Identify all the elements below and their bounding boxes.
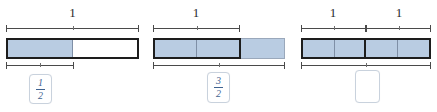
brace-cap-right xyxy=(239,25,240,32)
answer-box-three-halves[interactable]: 3 2 xyxy=(207,72,230,103)
bar-cell-shaded[interactable] xyxy=(366,40,398,57)
fraction-value: 1 2 xyxy=(36,78,45,101)
answer-box-empty[interactable] xyxy=(355,70,380,103)
fraction-model-three-halves: 1 3 2 xyxy=(148,0,293,112)
bar-cell-shaded[interactable] xyxy=(335,40,367,57)
bar-cell-shaded[interactable] xyxy=(155,40,197,57)
bottom-brace-shaded xyxy=(301,62,431,69)
bar-cell-shaded[interactable] xyxy=(303,40,335,57)
brace-tick-mid xyxy=(197,26,198,30)
top-brace-whole-2 xyxy=(366,25,431,32)
brace-cap-left xyxy=(153,25,154,32)
fraction-value: 3 2 xyxy=(214,76,223,99)
brace-cap-left xyxy=(301,62,302,69)
brace-cap-right xyxy=(284,62,285,69)
bottom-brace-shaded xyxy=(153,62,285,69)
brace-cap-right xyxy=(73,62,74,69)
fraction-numerator: 3 xyxy=(216,76,221,86)
brace-cap-left xyxy=(6,25,7,32)
brace-tick-mid xyxy=(399,26,400,30)
fraction-bar xyxy=(301,38,431,59)
brace-tick-mid xyxy=(219,63,220,67)
brace-cap-left xyxy=(6,62,7,69)
whole-label-1: 1 xyxy=(152,6,240,20)
brace-cap-left xyxy=(153,62,154,69)
brace-tick-mid xyxy=(73,26,74,30)
bar-cell-shaded[interactable] xyxy=(197,40,239,57)
brace-cap-left xyxy=(366,25,367,32)
brace-cap-right xyxy=(430,62,431,69)
bottom-brace-shaded xyxy=(6,62,74,69)
brace-cap-right xyxy=(138,25,139,32)
brace-tick-mid xyxy=(40,63,41,67)
whole-label-1: 1 xyxy=(5,6,140,20)
bar-cell-shaded[interactable] xyxy=(398,40,430,57)
fraction-model-one-half: 1 1 2 xyxy=(0,0,145,112)
answer-box-one-half[interactable]: 1 2 xyxy=(29,74,52,104)
fraction-numerator: 1 xyxy=(38,78,43,88)
whole-label-1: 1 xyxy=(300,6,366,20)
top-brace-whole xyxy=(6,25,139,32)
brace-cap-right xyxy=(430,25,431,32)
brace-cap-left xyxy=(301,25,302,32)
top-brace-whole xyxy=(153,25,240,32)
top-brace-whole-1 xyxy=(301,25,366,32)
fraction-denominator: 2 xyxy=(38,91,43,101)
fraction-bar xyxy=(6,38,139,59)
bar-cell-empty[interactable] xyxy=(73,40,138,57)
fraction-model-four-halves: 1 1 xyxy=(293,0,437,112)
whole-label-2: 1 xyxy=(366,6,432,20)
brace-tick-mid xyxy=(366,63,367,67)
brace-tick-mid xyxy=(334,26,335,30)
fraction-denominator: 2 xyxy=(216,89,221,99)
bar-cell-shaded[interactable] xyxy=(8,40,73,57)
fraction-bar-diagram: 1 1 2 1 xyxy=(0,0,437,112)
fraction-bar-whole xyxy=(153,38,241,59)
